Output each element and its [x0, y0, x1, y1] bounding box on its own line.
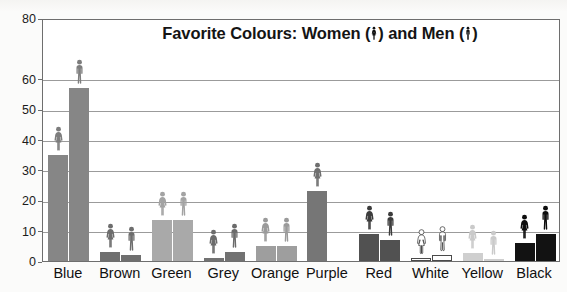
- bar-yellow-women: [463, 253, 483, 261]
- male-figure-icon-black: [540, 205, 551, 231]
- male-figure-icon-yellow: [488, 230, 499, 256]
- female-figure-icon-white: [416, 229, 427, 255]
- bar-brown-men: [121, 255, 141, 261]
- female-figure-icon-purple: [312, 162, 323, 188]
- chart-title-middle: ) and Men (: [378, 24, 464, 42]
- female-figure-icon-green: [157, 191, 168, 217]
- chart-screenshot: Percentage 010203040506080 Favorite Colo…: [0, 0, 567, 292]
- y-axis-tick-label: 30: [0, 165, 40, 178]
- bar-black-men: [536, 234, 556, 261]
- x-axis-tick-label-brown: Brown: [99, 263, 140, 283]
- chart-title-prefix: Favorite Colours: Women (: [162, 24, 370, 42]
- chart-title: Favorite Colours: Women () and Men (): [100, 24, 540, 45]
- bar-white-women: [411, 258, 431, 261]
- bar-grey-women: [204, 258, 224, 261]
- bar-green-men: [173, 220, 193, 261]
- x-axis-tick-label-grey: Grey: [208, 263, 239, 283]
- bar-yellow-men: [484, 259, 504, 261]
- male-figure-icon-blue: [74, 59, 85, 85]
- y-axis-tick-label: 60: [0, 74, 40, 87]
- bar-blue-men: [69, 88, 89, 261]
- x-axis-tick-label-red: Red: [365, 263, 392, 283]
- y-axis-tick-label: 10: [0, 225, 40, 238]
- male-figure-icon: [465, 26, 471, 45]
- scan-noise-band: [0, 0, 567, 12]
- x-axis-tick-label-yellow: Yellow: [462, 263, 503, 283]
- male-figure-icon-grey: [229, 223, 240, 249]
- y-axis-tick-label: 50: [0, 104, 40, 117]
- y-axis-tick-label: 80: [0, 13, 40, 26]
- bar-black-women: [515, 243, 535, 261]
- x-axis-tick-label-blue: Blue: [53, 263, 82, 283]
- x-axis-tick-label-purple: Purple: [306, 263, 348, 283]
- chart-title-suffix: ): [472, 24, 477, 42]
- bar-brown-women: [100, 252, 120, 261]
- female-figure-icon-brown: [105, 223, 116, 249]
- bar-purple-women: [307, 191, 327, 261]
- bar-green-women: [152, 220, 172, 261]
- x-axis-tick-label-black: Black: [516, 263, 551, 283]
- bar-red-men: [380, 240, 400, 261]
- female-figure-icon-yellow: [467, 224, 478, 250]
- male-figure-icon-green: [178, 191, 189, 217]
- bar-red-women: [359, 234, 379, 261]
- female-figure-icon-black: [519, 214, 530, 240]
- bar-white-men: [432, 255, 452, 261]
- female-figure-icon-blue: [53, 126, 64, 152]
- male-figure-icon-red: [385, 211, 396, 237]
- female-figure-icon-grey: [208, 229, 219, 255]
- female-figure-icon-orange: [260, 217, 271, 243]
- bar-blue-women: [48, 155, 68, 261]
- male-figure-icon-white: [437, 226, 448, 252]
- bar-series-container: [43, 20, 559, 261]
- y-axis-tick-labels: 010203040506080: [0, 19, 40, 262]
- x-axis-tick-label-green: Green: [151, 263, 191, 283]
- x-axis-tick-label-white: White: [412, 263, 449, 283]
- female-figure-icon-red: [364, 205, 375, 231]
- plot-area: [42, 19, 560, 262]
- male-figure-icon-orange: [281, 217, 292, 243]
- y-axis-tick-label: 40: [0, 134, 40, 147]
- y-axis-tick-label: 0: [0, 256, 40, 269]
- male-figure-icon-brown: [126, 226, 137, 252]
- y-axis-tick-label: 20: [0, 195, 40, 208]
- bar-orange-women: [256, 246, 276, 261]
- bar-orange-men: [277, 246, 297, 261]
- bar-grey-men: [225, 252, 245, 261]
- x-axis-tick-label-orange: Orange: [251, 263, 299, 283]
- female-figure-icon: [371, 26, 377, 45]
- x-axis-tick-labels: BlueBrownGreenGreyOrangePurpleRedWhiteYe…: [42, 263, 560, 289]
